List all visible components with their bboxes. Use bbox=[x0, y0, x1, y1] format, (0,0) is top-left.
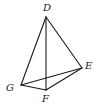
edge-de bbox=[46, 17, 82, 68]
vertex-label-d: D bbox=[42, 2, 51, 13]
vertex-label-e: E bbox=[84, 60, 93, 71]
vertex-label-g: G bbox=[6, 82, 14, 93]
tetrahedron-diagram: D E G F bbox=[0, 0, 99, 105]
edge-gf bbox=[21, 85, 46, 90]
vertex-label-f: F bbox=[41, 93, 50, 104]
edge-fe bbox=[46, 68, 82, 90]
edge-dg bbox=[21, 17, 46, 85]
edge-ge bbox=[21, 68, 82, 85]
